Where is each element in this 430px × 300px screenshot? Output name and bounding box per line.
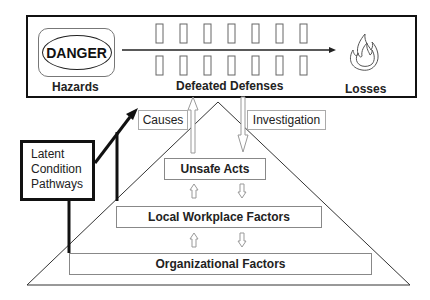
causes-up-arrow-icon bbox=[188, 97, 198, 153]
latent-condition-pathways-box: Latent Condition Pathways bbox=[20, 140, 95, 201]
losses-label: Losses bbox=[345, 82, 386, 96]
defeated-defenses-label: Defeated Defenses bbox=[176, 79, 283, 93]
hazards-label: Hazards bbox=[52, 80, 99, 94]
organizational-factors-box: Organizational Factors bbox=[69, 253, 372, 275]
latent-line-1: Latent bbox=[31, 147, 92, 162]
unsafe-acts-box: Unsafe Acts bbox=[164, 158, 266, 180]
local-workplace-factors-box: Local Workplace Factors bbox=[116, 206, 322, 228]
latent-line-3: Pathways bbox=[31, 177, 92, 192]
causes-label: Causes bbox=[138, 110, 188, 130]
danger-sign-text: DANGER bbox=[42, 35, 112, 70]
danger-sign-icon: DANGER bbox=[38, 28, 115, 77]
investigation-label: Investigation bbox=[247, 110, 326, 130]
latent-line-2: Condition bbox=[31, 162, 92, 177]
